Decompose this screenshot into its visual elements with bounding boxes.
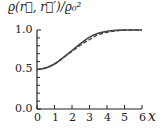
x-tick-2: 2 <box>69 112 76 123</box>
x-tick-5: 5 <box>121 112 128 123</box>
x-tick-4: 4 <box>104 112 111 123</box>
x-tick-1: 1 <box>52 112 59 123</box>
axes <box>37 30 142 109</box>
y-tick-05: 0.5 <box>15 63 33 74</box>
solid-curve <box>37 30 142 70</box>
x-tick-3: 3 <box>86 112 93 123</box>
x-axis-variable: x <box>148 108 156 124</box>
y-tick-1: 1.0 <box>15 24 33 35</box>
dashed-curve <box>37 30 142 70</box>
x-tick-0: 0 <box>34 112 41 123</box>
x-tick-6: 6 <box>139 112 146 123</box>
y-tick-0: 0.0 <box>15 103 33 114</box>
